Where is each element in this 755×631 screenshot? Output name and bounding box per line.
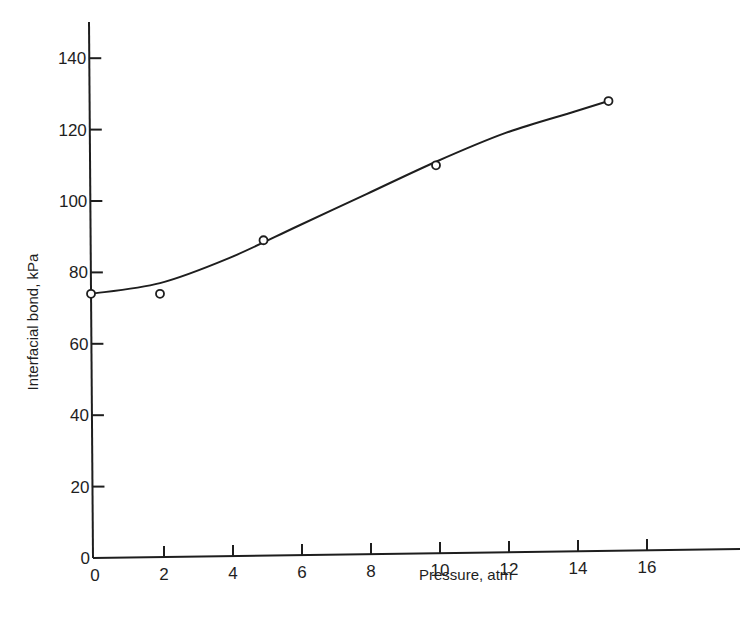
y-tick-label: 100 bbox=[59, 192, 87, 211]
data-point-marker bbox=[605, 97, 613, 105]
x-tick-label: 14 bbox=[569, 559, 588, 578]
fitted-curve bbox=[91, 101, 609, 294]
y-tick-label: 120 bbox=[58, 121, 86, 140]
x-axis-ticks: 0246810121416 bbox=[90, 539, 656, 585]
y-tick-label: 60 bbox=[69, 335, 88, 354]
y-axis-title: Interfacial bond, kPa bbox=[24, 253, 41, 390]
data-point-marker bbox=[432, 161, 440, 169]
data-point-marker bbox=[260, 236, 268, 244]
x-axis-title: Pressure, atm bbox=[419, 566, 512, 583]
axes bbox=[89, 22, 740, 558]
y-tick-label: 80 bbox=[69, 263, 88, 282]
x-tick-label: 16 bbox=[638, 558, 657, 577]
x-tick-label: 0 bbox=[90, 566, 99, 585]
x-tick-label: 6 bbox=[297, 563, 306, 582]
x-tick-label: 2 bbox=[159, 565, 168, 584]
data-point-marker bbox=[87, 290, 95, 298]
y-axis-ticks: 020406080100120140 bbox=[58, 49, 105, 568]
x-tick-label: 8 bbox=[366, 562, 375, 581]
chart: 0246810121416 020406080100120140 Pressur… bbox=[0, 0, 755, 631]
y-tick-label: 20 bbox=[71, 478, 90, 497]
data-points bbox=[87, 97, 613, 298]
data-point-marker bbox=[156, 290, 164, 298]
y-tick-label: 140 bbox=[58, 49, 86, 68]
x-tick-label: 4 bbox=[228, 564, 237, 583]
y-tick-label: 40 bbox=[70, 406, 89, 425]
y-tick-label: 0 bbox=[81, 549, 90, 568]
